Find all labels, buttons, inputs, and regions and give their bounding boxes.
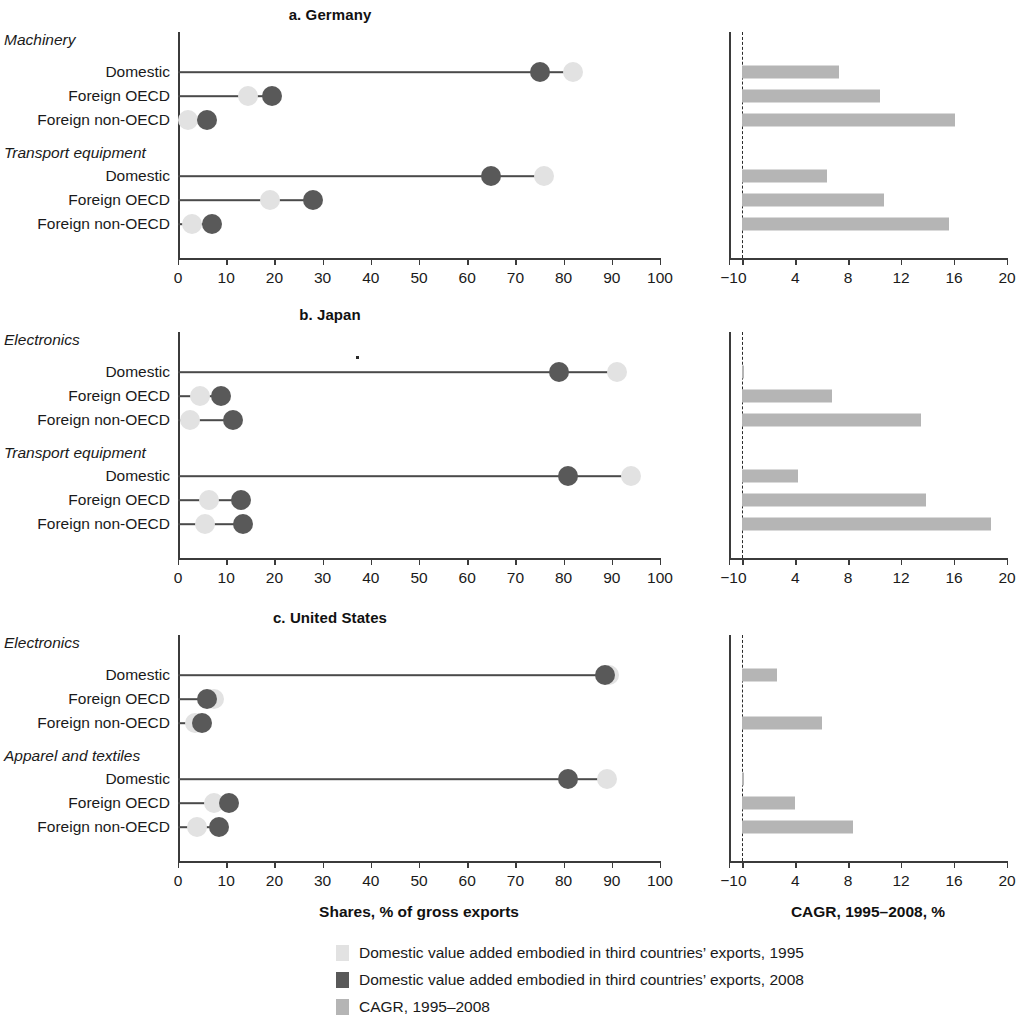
left-x-tick: [226, 258, 227, 265]
left-axis-caption: Shares, % of gross exports: [319, 903, 519, 921]
right-x-tick: [848, 258, 849, 265]
marker-1995[interactable]: [195, 514, 215, 534]
value-connector-line: [178, 199, 313, 201]
left-x-tick: [274, 861, 275, 868]
left-x-tick: [419, 258, 420, 265]
legend-item-dva-1995: Domestic value added embodied in third c…: [336, 940, 804, 966]
marker-1995[interactable]: [607, 362, 627, 382]
marker-2008[interactable]: [223, 410, 243, 430]
marker-2008[interactable]: [530, 62, 550, 82]
right-x-tick: [848, 861, 849, 868]
right-x-tick-label: 8: [844, 569, 853, 587]
cagr-bar[interactable]: [742, 114, 955, 127]
row-label: Domestic: [0, 467, 170, 485]
right-x-tick-label: 16: [945, 569, 962, 587]
cagr-bar[interactable]: [742, 518, 991, 531]
marker-2008[interactable]: [197, 110, 217, 130]
cagr-bar[interactable]: [742, 773, 743, 786]
legend-label: Domestic value added embodied in third c…: [359, 971, 804, 989]
marker-1995[interactable]: [621, 466, 641, 486]
left-x-tick: [371, 258, 372, 265]
cagr-bar[interactable]: [742, 390, 832, 403]
right-x-tick: [954, 558, 955, 565]
marker-1995[interactable]: [597, 769, 617, 789]
row-label: Domestic: [0, 770, 170, 788]
cagr-bar[interactable]: [742, 494, 926, 507]
cagr-bar[interactable]: [742, 717, 821, 730]
left-x-tick-label: 20: [266, 269, 283, 287]
marker-2008[interactable]: [595, 665, 615, 685]
right-x-tick: [795, 861, 796, 868]
marker-2008[interactable]: [197, 689, 217, 709]
legend-item-cagr: CAGR, 1995–2008: [336, 994, 490, 1020]
marker-2008[interactable]: [202, 214, 222, 234]
left-x-tick-label: 70: [507, 872, 524, 890]
right-x-tick-label: 12: [892, 872, 909, 890]
marker-2008[interactable]: [549, 362, 569, 382]
marker-2008[interactable]: [211, 386, 231, 406]
left-x-tick-label: 80: [555, 569, 572, 587]
left-x-tick: [419, 861, 420, 868]
value-connector-line: [178, 71, 573, 73]
value-connector-line: [178, 778, 607, 780]
left-x-tick: [371, 861, 372, 868]
cagr-bar[interactable]: [742, 66, 839, 79]
cagr-bar[interactable]: [742, 90, 880, 103]
right-x-tick: [1007, 258, 1008, 265]
left-x-tick-label: 60: [459, 872, 476, 890]
marker-2008[interactable]: [558, 466, 578, 486]
left-x-tick: [371, 558, 372, 565]
left-x-tick-label: 50: [410, 872, 427, 890]
left-x-tick-label: 40: [362, 872, 379, 890]
left-x-tick: [612, 861, 613, 868]
left-x-tick-label: 90: [603, 269, 620, 287]
cagr-bar[interactable]: [742, 797, 795, 810]
marker-1995[interactable]: [260, 190, 280, 210]
legend-label: CAGR, 1995–2008: [359, 998, 490, 1016]
cagr-bar[interactable]: [742, 194, 884, 207]
right-x-axis: [729, 258, 1007, 260]
marker-2008[interactable]: [231, 490, 251, 510]
left-x-tick-label: 50: [410, 569, 427, 587]
right-x-tick-label: 20: [998, 569, 1015, 587]
marker-1995[interactable]: [187, 817, 207, 837]
marker-2008[interactable]: [303, 190, 323, 210]
right-x-tick: [729, 558, 730, 565]
legend-label: Domestic value added embodied in third c…: [359, 944, 804, 962]
group-label-2: Transport equipment: [4, 144, 146, 162]
marker-2008[interactable]: [558, 769, 578, 789]
row-label: Domestic: [0, 63, 170, 81]
left-x-tick-label: 10: [218, 872, 235, 890]
left-x-tick: [467, 258, 468, 265]
cagr-bar[interactable]: [742, 669, 776, 682]
group-label-2: Apparel and textiles: [4, 747, 140, 765]
marker-1995[interactable]: [238, 86, 258, 106]
marker-2008[interactable]: [233, 514, 253, 534]
right-x-tick: [954, 258, 955, 265]
marker-1995[interactable]: [180, 410, 200, 430]
cagr-bar[interactable]: [742, 170, 827, 183]
marker-1995[interactable]: [182, 214, 202, 234]
right-x-tick: [901, 861, 902, 868]
cagr-bar[interactable]: [742, 414, 921, 427]
cagr-bar[interactable]: [742, 470, 798, 483]
cagr-bar[interactable]: [742, 821, 853, 834]
cagr-bar[interactable]: [742, 366, 743, 379]
left-x-tick-label: 100: [647, 269, 673, 287]
panel-united-states: c. United States0102030405060708090100−1…: [0, 603, 1029, 893]
right-x-tick-label: −1: [720, 569, 738, 587]
marker-2008[interactable]: [262, 86, 282, 106]
marker-1995[interactable]: [534, 166, 554, 186]
marker-2008[interactable]: [219, 793, 239, 813]
left-x-tick-label: 90: [603, 569, 620, 587]
marker-1995[interactable]: [178, 110, 198, 130]
marker-1995[interactable]: [563, 62, 583, 82]
marker-1995[interactable]: [190, 386, 210, 406]
cagr-bar[interactable]: [742, 218, 949, 231]
marker-2008[interactable]: [209, 817, 229, 837]
marker-1995[interactable]: [199, 490, 219, 510]
right-y-axis: [729, 332, 731, 558]
left-x-tick: [515, 861, 516, 868]
marker-2008[interactable]: [192, 713, 212, 733]
marker-2008[interactable]: [481, 166, 501, 186]
